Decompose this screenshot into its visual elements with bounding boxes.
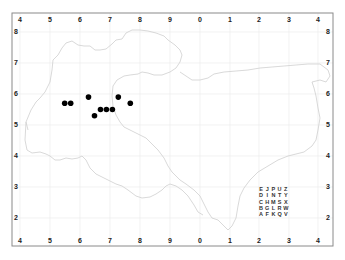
key-letter: L — [272, 205, 276, 211]
key-letter: V — [284, 211, 288, 217]
svg-text:5: 5 — [48, 237, 52, 244]
key-letter: F — [266, 211, 270, 217]
grid-square-key: EJPUZDINTYCHMSXBGLRWAFKQV — [259, 186, 289, 217]
svg-text:2: 2 — [14, 214, 18, 221]
svg-text:2: 2 — [257, 237, 261, 244]
svg-text:2: 2 — [326, 214, 330, 221]
svg-text:4: 4 — [316, 16, 320, 23]
svg-text:8: 8 — [138, 16, 142, 23]
distribution-map: 4 5 6 7 8 9 0 1 2 3 4 4 5 6 7 8 9 0 1 2 … — [0, 0, 345, 260]
key-letter: Q — [277, 211, 282, 217]
key-letter: H — [265, 199, 269, 205]
svg-text:2: 2 — [257, 16, 261, 23]
svg-text:4: 4 — [316, 237, 320, 244]
svg-text:1: 1 — [228, 16, 232, 23]
x-axis-top-labels: 4 5 6 7 8 9 0 1 2 3 4 — [18, 16, 320, 23]
svg-text:8: 8 — [326, 28, 330, 35]
svg-text:0: 0 — [198, 16, 202, 23]
record-dot — [110, 107, 116, 113]
svg-text:5: 5 — [326, 121, 330, 128]
svg-text:4: 4 — [18, 237, 22, 244]
record-dot — [128, 101, 134, 107]
svg-text:6: 6 — [14, 90, 18, 97]
key-letter: J — [266, 186, 269, 192]
y-axis-left-labels: 8 7 6 5 4 3 2 — [14, 28, 18, 221]
svg-text:7: 7 — [108, 237, 112, 244]
record-dot — [68, 101, 74, 107]
key-letter: T — [278, 192, 282, 198]
svg-text:8: 8 — [138, 237, 142, 244]
key-letter: N — [271, 192, 275, 198]
record-dot — [104, 107, 110, 113]
key-letter: P — [272, 186, 276, 192]
svg-text:7: 7 — [326, 59, 330, 66]
svg-text:9: 9 — [168, 237, 172, 244]
svg-text:3: 3 — [287, 237, 291, 244]
south-coastline — [25, 122, 203, 215]
svg-text:0: 0 — [198, 237, 202, 244]
svg-text:6: 6 — [326, 90, 330, 97]
record-dot — [92, 113, 98, 119]
x-axis-bottom-labels: 4 5 6 7 8 9 0 1 2 3 4 — [18, 237, 320, 244]
svg-text:5: 5 — [48, 16, 52, 23]
key-letter: C — [259, 199, 263, 205]
svg-text:6: 6 — [78, 16, 82, 23]
svg-text:5: 5 — [14, 121, 18, 128]
svg-text:4: 4 — [14, 152, 18, 159]
key-letter: E — [259, 186, 263, 192]
key-letter: D — [259, 192, 263, 198]
svg-text:4: 4 — [18, 16, 22, 23]
key-letter: K — [271, 211, 275, 217]
key-letter: W — [283, 205, 289, 211]
svg-text:4: 4 — [326, 152, 330, 159]
svg-text:7: 7 — [108, 16, 112, 23]
svg-text:6: 6 — [78, 237, 82, 244]
svg-text:8: 8 — [14, 28, 18, 35]
key-letter: S — [278, 199, 282, 205]
key-letter: U — [278, 186, 282, 192]
svg-text:9: 9 — [168, 16, 172, 23]
key-letter: R — [278, 205, 282, 211]
key-letter: Y — [284, 192, 288, 198]
key-letter: X — [284, 199, 288, 205]
key-letter: G — [265, 205, 269, 211]
key-letter: B — [259, 205, 263, 211]
record-dot — [62, 101, 68, 107]
record-dot — [86, 94, 92, 100]
key-letter: I — [266, 192, 268, 198]
key-letter: M — [271, 199, 276, 205]
key-letter: A — [259, 211, 263, 217]
record-dot — [116, 94, 122, 100]
record-points — [62, 94, 133, 118]
y-axis-right-labels: 8 7 6 5 4 3 2 — [326, 28, 330, 221]
svg-text:3: 3 — [287, 16, 291, 23]
svg-text:1: 1 — [228, 237, 232, 244]
svg-text:3: 3 — [326, 183, 330, 190]
record-dot — [98, 107, 104, 113]
svg-text:7: 7 — [14, 59, 18, 66]
svg-text:3: 3 — [14, 183, 18, 190]
